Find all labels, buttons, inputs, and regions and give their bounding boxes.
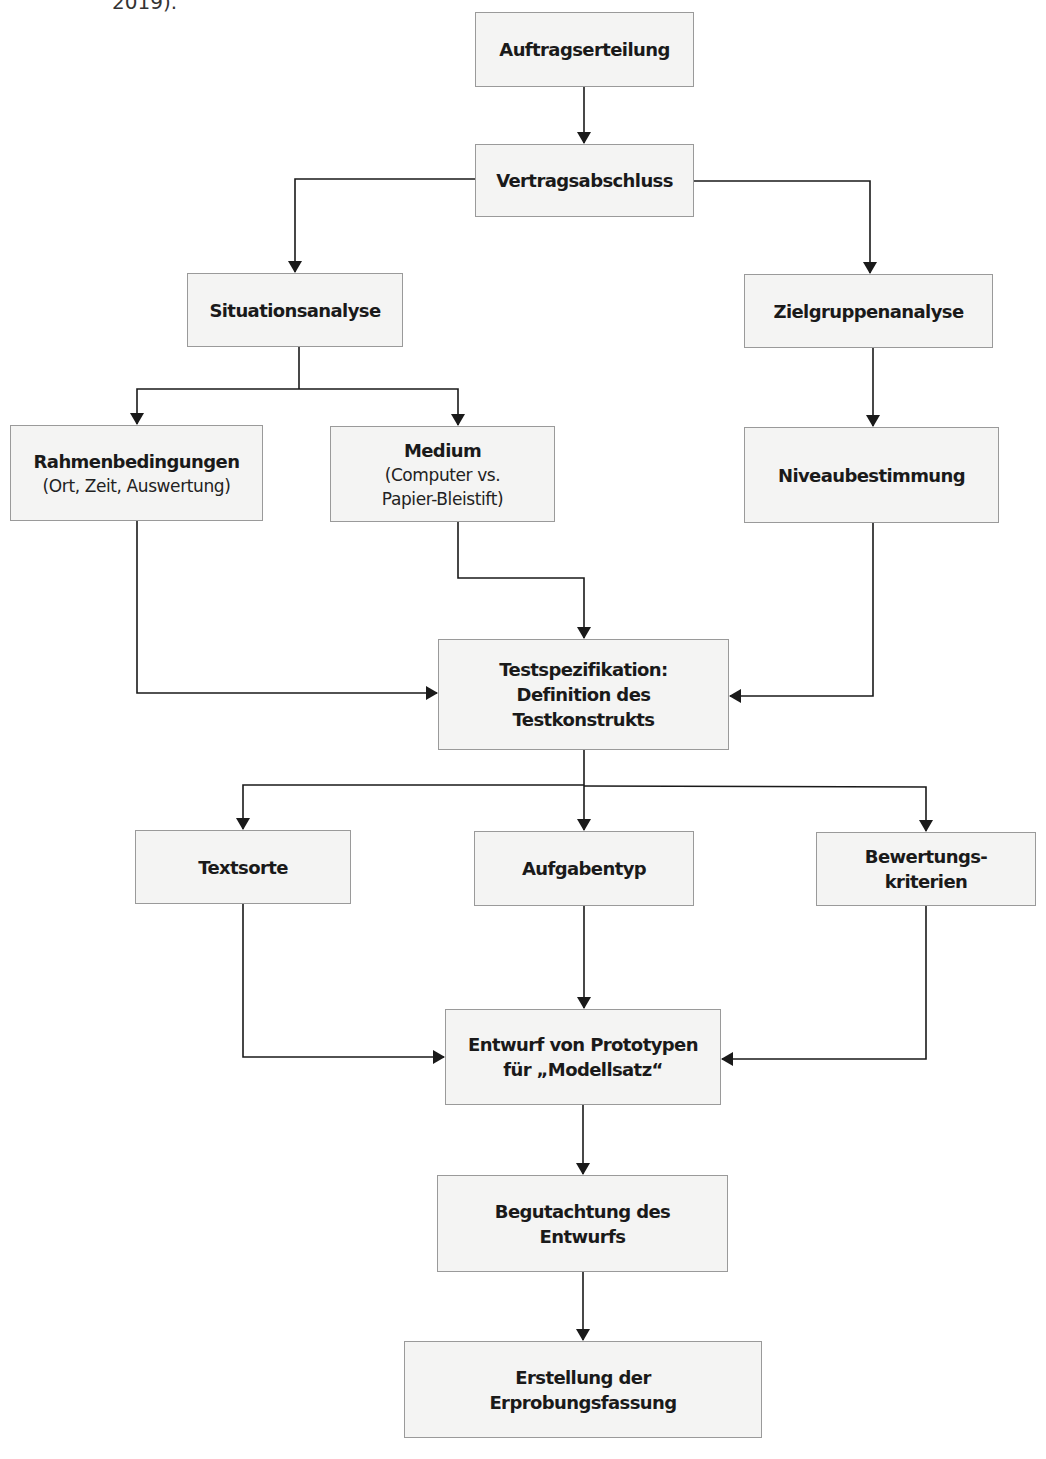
- node-title: Textsorte: [198, 855, 288, 880]
- edge-testspez-textsorte: [243, 785, 584, 829]
- node-title: Auftragserteilung: [499, 37, 669, 62]
- node-situationsanalyse: Situationsanalyse: [187, 273, 403, 347]
- edge-testspez-bewertung: [584, 786, 926, 831]
- node-subtitle: (Computer vs. Papier-Bleistift): [382, 463, 503, 511]
- node-rahmenbedingungen: Rahmenbedingungen (Ort, Zeit, Auswertung…: [10, 425, 263, 521]
- edge-niveau-testspez: [730, 523, 873, 696]
- edge-situation-rahmen: [137, 389, 299, 424]
- edge-textsorte-entwurf: [243, 904, 444, 1057]
- node-subtitle: (Ort, Zeit, Auswertung): [43, 474, 231, 498]
- edge-situation-medium: [299, 389, 458, 425]
- node-title: Zielgruppenanalyse: [773, 299, 963, 324]
- edge-vertrag-situation: [295, 179, 475, 272]
- node-title: Niveaubestimmung: [778, 463, 965, 488]
- edge-vertrag-zielgruppe: [694, 181, 870, 273]
- edge-medium-testspez: [458, 522, 584, 638]
- node-title: Bewertungs- kriterien: [865, 844, 987, 894]
- node-title: Situationsanalyse: [209, 298, 380, 323]
- node-entwurf: Entwurf von Prototypen für „Modellsatz“: [445, 1009, 721, 1105]
- node-title: Aufgabentyp: [522, 856, 646, 881]
- node-title: Rahmenbedingungen: [34, 449, 240, 474]
- node-begutachtung: Begutachtung des Entwurfs: [437, 1175, 728, 1272]
- node-vertragsabschluss: Vertragsabschluss: [475, 144, 694, 217]
- node-aufgabentyp: Aufgabentyp: [474, 831, 694, 906]
- node-title: Vertragsabschluss: [496, 168, 673, 193]
- edge-rahmen-testspez: [137, 521, 437, 693]
- node-medium: Medium (Computer vs. Papier-Bleistift): [330, 426, 555, 522]
- edge-bewertung-entwurf: [722, 906, 926, 1059]
- node-title: Medium: [404, 438, 481, 463]
- node-title: Testspezifikation: Definition des Testko…: [499, 657, 667, 732]
- node-title: Begutachtung des Entwurfs: [495, 1199, 670, 1249]
- node-zielgruppenanalyse: Zielgruppenanalyse: [744, 274, 993, 348]
- node-title: Erstellung der Erprobungsfassung: [489, 1365, 676, 1415]
- node-niveaubestimmung: Niveaubestimmung: [744, 427, 999, 523]
- node-auftragserteilung: Auftragserteilung: [475, 12, 694, 87]
- node-testspezifikation: Testspezifikation: Definition des Testko…: [438, 639, 729, 750]
- node-title: Entwurf von Prototypen für „Modellsatz“: [468, 1032, 698, 1082]
- node-erstellung: Erstellung der Erprobungsfassung: [404, 1341, 762, 1438]
- node-bewertungskriterien: Bewertungs- kriterien: [816, 832, 1036, 906]
- node-textsorte: Textsorte: [135, 830, 351, 904]
